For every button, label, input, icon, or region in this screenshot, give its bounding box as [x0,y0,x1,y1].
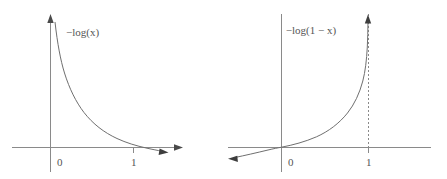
left-y-axis-arrow-icon [47,14,53,23]
figure-container: 0 1 −log(x) 0 1 −log(1 − x) [0,0,447,179]
left-plot-panel: 0 1 −log(x) [0,0,223,179]
left-x-axis-arrow-icon [174,144,183,150]
left-xtick-label-1: 1 [131,156,137,168]
left-curve-label: −log(x) [66,26,99,39]
right-curve-neg-log-one-minus-x [235,22,368,158]
left-curve-end-arrow-icon [159,149,169,155]
right-xtick-label-1: 1 [366,156,372,168]
right-xtick-label-0: 0 [288,156,294,168]
left-curve-neg-log-x [55,22,162,151]
right-curve-top-arrow-icon [365,15,371,24]
right-curve-left-arrow-icon [228,156,238,162]
right-plot-panel: 0 1 −log(1 − x) [223,0,447,179]
right-curve-label: −log(1 − x) [286,24,337,37]
left-xtick-label-0: 0 [57,156,63,168]
